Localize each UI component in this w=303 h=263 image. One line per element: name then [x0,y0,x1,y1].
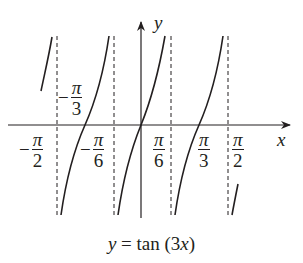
chart-caption: y = tan (3x) [0,233,303,255]
plot-area [0,0,303,263]
tick-label-neg-pi-over-3: − π 3 [58,78,82,118]
branch-partial-right [232,184,238,215]
tick-label-pi-over-3: π 3 [198,130,210,170]
tick-label-neg-pi-over-6: − π 6 [80,130,104,170]
x-axis-label: x [277,130,285,149]
tick-label-pi-over-2: π 2 [232,130,244,170]
branch-partial-left [41,37,52,91]
tick-label-pi-over-6: π 6 [153,130,165,170]
tick-label-neg-pi-over-2: − π 2 [19,130,43,170]
y-axis-label: y [154,13,162,32]
